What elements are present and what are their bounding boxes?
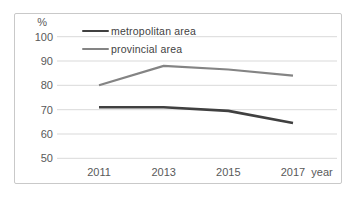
y-tick-label: 100: [35, 31, 53, 43]
x-tick-label: 2013: [151, 166, 175, 178]
legend-line-swatch-provincial: [82, 48, 109, 50]
x-tick-label: 2011: [87, 166, 111, 178]
chart-legend: metropolitan area provincial area: [82, 22, 196, 58]
y-tick-label: 80: [41, 79, 53, 91]
legend-item-provincial-area: provincial area: [82, 40, 196, 58]
y-tick-label: 70: [41, 104, 53, 116]
y-axis-unit-label: %: [37, 16, 47, 28]
y-tick-label: 90: [41, 55, 53, 67]
legend-line-swatch-metropolitan: [82, 30, 109, 33]
y-tick-label: 50: [41, 152, 53, 164]
chart-screenshot: 5060708090100%2011201320152017year metro…: [0, 0, 356, 197]
x-tick-label: 2015: [216, 166, 240, 178]
y-tick-label: 60: [41, 128, 53, 140]
x-axis-label: year: [311, 166, 333, 178]
legend-label-metropolitan: metropolitan area: [111, 25, 196, 37]
x-tick-label: 2017: [281, 166, 305, 178]
legend-label-provincial: provincial area: [111, 43, 182, 55]
legend-item-metropolitan-area: metropolitan area: [82, 22, 196, 40]
series-line-provincial-area: [99, 66, 293, 85]
